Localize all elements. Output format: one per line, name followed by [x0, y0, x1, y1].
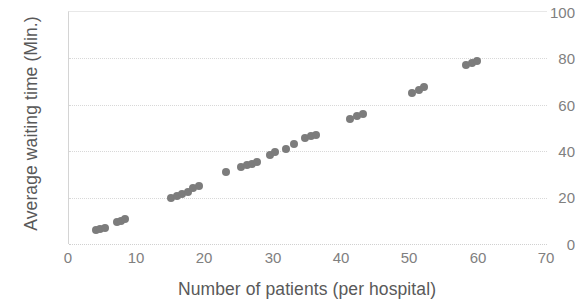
- scatter-chart: Average waiting time (Min.) 100 80 60 40…: [0, 0, 575, 308]
- data-point: [282, 145, 290, 153]
- data-point: [473, 57, 481, 65]
- data-point: [253, 158, 261, 166]
- data-point: [359, 110, 367, 118]
- x-tick-label-30: 30: [253, 250, 293, 265]
- data-point: [271, 148, 279, 156]
- gridline-60: [69, 105, 547, 106]
- x-tick-label-70: 70: [526, 250, 566, 265]
- x-tick-label-50: 50: [389, 250, 429, 265]
- data-point: [222, 168, 230, 176]
- data-point: [195, 182, 203, 190]
- gridline-0: [69, 244, 547, 245]
- data-point: [290, 140, 298, 148]
- gridline-40: [69, 151, 547, 152]
- x-tick-label-10: 10: [116, 250, 156, 265]
- gridline-20: [69, 198, 547, 199]
- x-axis-title: Number of patients (per hospital): [68, 279, 546, 300]
- x-tick-label-60: 60: [458, 250, 498, 265]
- y-axis-title: Average waiting time (Min.): [21, 0, 42, 259]
- plot-area: [68, 11, 547, 244]
- x-tick-label-40: 40: [321, 250, 361, 265]
- x-tick-label-20: 20: [184, 250, 224, 265]
- data-point: [420, 83, 428, 91]
- x-tick-label-0: 0: [48, 250, 88, 265]
- data-point: [121, 215, 129, 223]
- data-point: [101, 224, 109, 232]
- data-point: [312, 131, 320, 139]
